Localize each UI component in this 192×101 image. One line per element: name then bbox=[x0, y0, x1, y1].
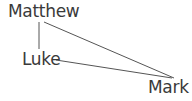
edge-luke-mark bbox=[56, 60, 172, 78]
node-matthew: Matthew bbox=[8, 3, 79, 20]
edge-matthew-mark bbox=[44, 22, 174, 78]
node-luke: Luke bbox=[22, 51, 60, 68]
node-mark: Mark bbox=[148, 79, 189, 96]
